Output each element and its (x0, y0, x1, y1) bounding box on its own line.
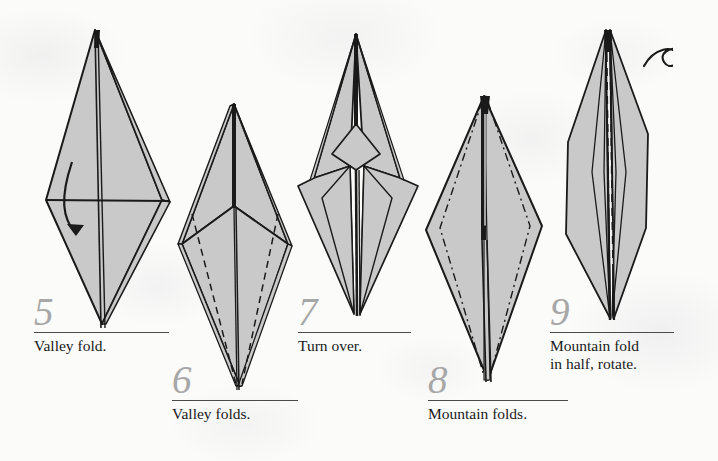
upper-spine-hollow (484, 96, 486, 226)
step-9-figure (548, 22, 673, 331)
waist-spine-ink (481, 226, 486, 240)
top-point-ink (604, 30, 612, 52)
narrow-elongated-model-with-center-crease (548, 22, 673, 327)
kite-diamond-with-valley-arrow (10, 22, 180, 332)
step-5-figure (10, 22, 180, 336)
step-7-number: 7 (298, 292, 411, 331)
step-5-number: 5 (34, 292, 169, 331)
step-9-number: 9 (550, 292, 674, 331)
top-point-ink (94, 30, 100, 48)
upper-spine-ink (481, 96, 484, 226)
top-spine-ink (232, 104, 236, 208)
step-8-caption-block: 8 Mountain folds. (428, 360, 568, 423)
step-5-caption-block: 5 Valley fold. (34, 292, 169, 355)
step-9-caption-block: 9 Mountain fold in half, rotate. (550, 292, 674, 374)
step-8-rule (428, 400, 568, 401)
step-6-caption-block: 6 Valley folds. (172, 360, 298, 423)
step-5-caption: Valley fold. (34, 337, 169, 355)
step-8-caption: Mountain folds. (428, 405, 568, 423)
step-9-caption: Mountain fold in half, rotate. (550, 337, 674, 374)
step-7-caption-block: 7 Turn over. (298, 292, 411, 355)
step-6-number: 6 (172, 360, 298, 399)
step-8-number: 8 (428, 360, 568, 399)
step-7-figure (288, 28, 433, 324)
step-8-figure (418, 88, 553, 392)
top-spine-ink (354, 34, 358, 126)
turn-over-loop-arrow (644, 49, 673, 80)
step-6-caption: Valley folds. (172, 405, 298, 423)
narrowed-kite-after-valley-folds (288, 28, 433, 320)
slim-diamond-with-dashdot-mountain-creases (418, 88, 553, 388)
step-5-rule (34, 332, 169, 333)
step-7-caption: Turn over. (298, 337, 411, 355)
origami-instruction-sheet: 5 Valley fold. 6 Valley folds. 7 Turn ov… (0, 0, 718, 461)
